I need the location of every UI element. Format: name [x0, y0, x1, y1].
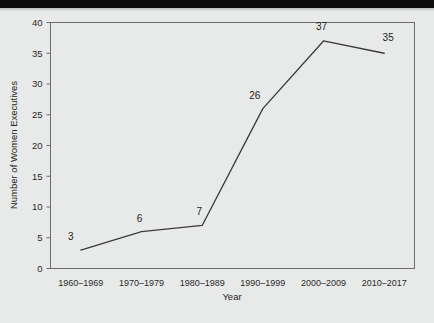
- data-point-labels: 367263735: [68, 21, 394, 242]
- chart-canvas: 0510152025303540 1960–19691970–19791980–…: [0, 11, 434, 323]
- scan-artifact-bar: [0, 0, 434, 8]
- y-tick-label: 25: [32, 109, 43, 120]
- plot-frame: [51, 23, 415, 269]
- data-point-value-label: 6: [137, 213, 143, 224]
- y-tick-label: 30: [32, 78, 43, 89]
- line-chart-figure: 0510152025303540 1960–19691970–19791980–…: [0, 11, 434, 323]
- y-tick-label: 10: [32, 201, 43, 212]
- x-axis-ticks: 1960–19691970–19791980–19891990–19992000…: [58, 278, 406, 288]
- x-tick-label: 1980–1989: [180, 278, 225, 288]
- y-tick-label: 40: [32, 17, 43, 28]
- data-point-value-label: 35: [383, 32, 395, 43]
- y-axis-title: Number of Women Executives: [8, 81, 19, 209]
- y-axis-ticks: 0510152025303540: [32, 17, 51, 274]
- x-axis-title: Year: [222, 291, 241, 302]
- x-tick-label: 1960–1969: [58, 278, 103, 288]
- y-tick-label: 5: [37, 232, 42, 243]
- data-series-line: [81, 41, 384, 250]
- y-tick-label: 15: [32, 171, 43, 182]
- x-tick-label: 1970–1979: [119, 278, 164, 288]
- y-tick-label: 0: [37, 263, 42, 274]
- data-point-value-label: 3: [68, 231, 74, 242]
- x-tick-label: 2000–2009: [301, 278, 346, 288]
- y-tick-label: 20: [32, 140, 43, 151]
- data-point-value-label: 37: [316, 21, 328, 32]
- data-point-value-label: 26: [249, 90, 261, 101]
- x-tick-label: 1990–1999: [240, 278, 285, 288]
- x-tick-label: 2010–2017: [362, 278, 407, 288]
- y-tick-label: 35: [32, 48, 43, 59]
- figure-page: 0510152025303540 1960–19691970–19791980–…: [0, 0, 434, 323]
- data-point-value-label: 7: [196, 206, 202, 217]
